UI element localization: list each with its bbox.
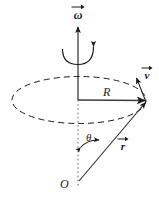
radius-label: R [103,86,110,98]
velocity-label: v [141,70,153,82]
physics-diagram: ω v r R θ O [0,0,159,202]
omega-vector-accent-icon [71,4,85,9]
position-vector-accent-icon [117,136,129,141]
position-label: r [117,141,129,153]
origin-label: O [60,178,69,190]
radius-vector [78,100,145,101]
diagram-canvas [0,0,159,202]
omega-glyph: ω [70,9,86,21]
velocity-glyph: v [141,70,153,81]
position-glyph: r [117,141,129,152]
velocity-vector-accent-icon [141,65,153,70]
omega-label: ω [70,9,86,22]
angle-label: θ [86,132,91,143]
